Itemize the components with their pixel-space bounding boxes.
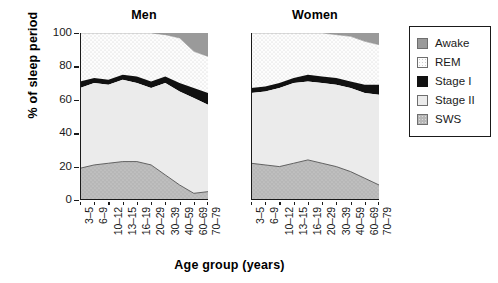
x-tick-label-men-9: 70–79 [211, 207, 222, 235]
x-tick-mark [94, 202, 95, 205]
x-tick-label-women-7: 40–59 [355, 207, 366, 235]
x-tick-label-women-3: 13–15 [298, 207, 309, 235]
y-tick-40 [74, 133, 79, 134]
legend-label-awake: Awake [435, 38, 469, 50]
panel-title-women: Women [251, 8, 379, 22]
x-tick-mark [137, 202, 138, 205]
plot-area-women [251, 33, 379, 200]
y-tick-label-0: 0 [66, 194, 72, 206]
x-tick-mark [123, 202, 124, 205]
legend-label-stage-2: Stage II [435, 95, 475, 107]
panel-men: Men [80, 33, 208, 200]
y-tick-label-60: 60 [59, 94, 72, 106]
x-tick-labels-women: 3–5 6–9 10–12 13–15 16–19 20–29 30–39 40… [251, 202, 379, 254]
axis-spine-bottom-men [80, 199, 208, 200]
legend-item-rem: REM [417, 53, 484, 72]
axis-spine-bottom-women [251, 199, 379, 200]
legend-item-awake: Awake [417, 34, 484, 53]
x-axis-title: Age group (years) [80, 258, 379, 272]
chart-figure: % of sleep period Age group (years) Men [0, 0, 498, 283]
x-tick-mark [151, 202, 152, 205]
x-tick-label-women-1: 6–9 [269, 207, 280, 224]
x-tick-label-women-5: 20–29 [326, 207, 337, 235]
x-tick-label-men-8: 60–69 [198, 207, 209, 235]
x-tick-label-men-3: 13–15 [127, 207, 138, 235]
x-tick-mark [308, 202, 309, 205]
x-tick-label-men-4: 16–19 [141, 207, 152, 235]
x-tick-label-women-9: 70–79 [382, 207, 393, 235]
x-tick-label-men-1: 6–9 [98, 207, 109, 224]
y-axis-title: % of sleep period [26, 0, 40, 150]
legend-swatch-awake [417, 38, 428, 49]
x-tick-mark [265, 202, 266, 205]
legend-swatch-stage-2 [417, 95, 428, 106]
x-tick-mark [322, 202, 323, 205]
x-tick-label-men-2: 10–12 [113, 207, 124, 235]
x-tick-mark [165, 202, 166, 205]
series-women [251, 33, 379, 200]
legend-swatch-sws [417, 114, 428, 125]
x-tick-label-women-2: 10–12 [284, 207, 295, 235]
plot-area-men [80, 33, 208, 200]
x-tick-label-women-6: 30–39 [341, 207, 352, 235]
x-tick-label-women-0: 3–5 [255, 207, 266, 224]
y-tick-100 [74, 33, 79, 34]
legend-item-sws: SWS [417, 110, 484, 129]
legend-label-rem: REM [435, 57, 461, 69]
legend-label-sws: SWS [435, 114, 461, 126]
legend-label-stage-1: Stage I [435, 76, 471, 88]
legend: Awake REM Stage I Stage II SWS [409, 26, 491, 137]
y-tick-label-100: 100 [53, 27, 72, 39]
x-tick-mark [180, 202, 181, 205]
x-tick-mark [279, 202, 280, 205]
axis-spine-left-men [80, 33, 81, 200]
series-men [80, 33, 208, 200]
y-tick-80 [74, 66, 79, 67]
stacked-area-svg-women [251, 33, 379, 200]
panel-title-men: Men [80, 8, 208, 22]
y-tick-label-20: 20 [59, 161, 72, 173]
x-tick-label-men-6: 30–39 [170, 207, 181, 235]
stacked-area-svg-men [80, 33, 208, 200]
x-tick-label-men-5: 20–29 [155, 207, 166, 235]
panel-women: Women [251, 33, 379, 200]
x-tick-mark [378, 202, 379, 205]
x-tick-label-women-4: 16–19 [312, 207, 323, 235]
y-tick-20 [74, 167, 79, 168]
y-tick-60 [74, 100, 79, 101]
axis-spine-left-women [251, 33, 252, 200]
legend-item-stage-2: Stage II [417, 91, 484, 110]
legend-swatch-stage-1 [417, 76, 428, 87]
x-tick-mark [194, 202, 195, 205]
x-tick-mark [294, 202, 295, 205]
legend-swatch-rem [417, 57, 428, 68]
x-tick-label-men-7: 40–59 [184, 207, 195, 235]
x-tick-label-men-0: 3–5 [84, 207, 95, 224]
x-tick-label-women-8: 60–69 [369, 207, 380, 235]
y-tick-0 [74, 200, 79, 201]
x-tick-mark [207, 202, 208, 205]
x-tick-mark [108, 202, 109, 205]
x-tick-mark [365, 202, 366, 205]
x-tick-labels-men: 3–5 6–9 10–12 13–15 16–19 20–29 30–39 40… [80, 202, 208, 254]
y-tick-label-40: 40 [59, 127, 72, 139]
y-tick-label-80: 80 [59, 61, 72, 73]
x-tick-mark [336, 202, 337, 205]
x-tick-mark [80, 202, 81, 205]
x-tick-mark [351, 202, 352, 205]
x-tick-mark [251, 202, 252, 205]
legend-item-stage-1: Stage I [417, 72, 484, 91]
